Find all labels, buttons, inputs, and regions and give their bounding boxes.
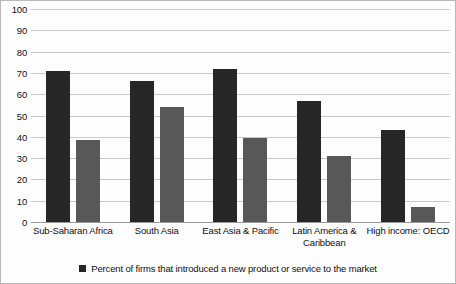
- bar-series1: [130, 81, 154, 222]
- x-axis-label: East Asia & Pacific: [199, 225, 283, 248]
- bar-series2: [411, 207, 435, 222]
- x-axis: Sub-Saharan AfricaSouth AsiaEast Asia & …: [31, 225, 450, 248]
- y-axis-label-70: 70: [17, 67, 27, 78]
- y-axis-label-100: 100: [12, 4, 27, 15]
- bar-group: [115, 9, 199, 222]
- bar-group: [366, 9, 450, 222]
- gridline-0: [31, 222, 450, 223]
- y-axis-label-0: 0: [22, 217, 27, 228]
- bar-series2: [76, 140, 100, 222]
- legend-label: Percent of firms that introduced a new p…: [91, 263, 377, 274]
- y-axis-label-20: 20: [17, 174, 27, 185]
- y-axis-label-80: 80: [17, 46, 27, 57]
- y-axis-label-90: 90: [17, 25, 27, 36]
- bar-series1: [46, 71, 70, 222]
- bar-group: [31, 9, 115, 222]
- y-axis-label-40: 40: [17, 131, 27, 142]
- plot-area: [31, 9, 450, 222]
- bar-series2: [243, 138, 267, 222]
- y-axis-label-60: 60: [17, 89, 27, 100]
- bar-series1: [213, 69, 237, 222]
- bar-series2: [327, 156, 351, 222]
- y-axis-label-50: 50: [17, 110, 27, 121]
- y-axis: 1009080706050403020100: [1, 9, 27, 222]
- legend-swatch-icon: [79, 265, 86, 272]
- bar-groups: [31, 9, 450, 222]
- x-axis-label: Sub-Saharan Africa: [31, 225, 115, 248]
- bar-chart: 1009080706050403020100 Sub-Saharan Afric…: [0, 0, 456, 284]
- bar-series1: [297, 101, 321, 222]
- chart-legend: Percent of firms that introduced a new p…: [1, 263, 455, 274]
- y-axis-label-30: 30: [17, 153, 27, 164]
- x-axis-label: High income: OECD: [366, 225, 450, 248]
- y-axis-label-10: 10: [17, 195, 27, 206]
- bar-series2: [160, 107, 184, 222]
- bar-group: [199, 9, 283, 222]
- bar-series1: [381, 130, 405, 222]
- x-axis-label: South Asia: [115, 225, 199, 248]
- bar-group: [282, 9, 366, 222]
- x-axis-label: Latin America & Caribbean: [282, 225, 366, 248]
